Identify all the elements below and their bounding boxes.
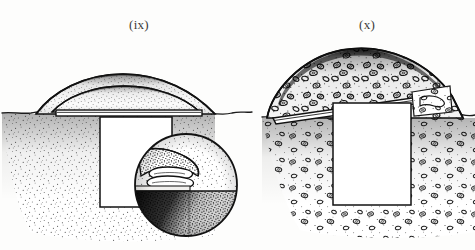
panel-ix xyxy=(2,71,252,241)
panel-x-stone-pocket xyxy=(412,86,452,116)
figure-root: (ix) (x) xyxy=(0,0,475,250)
cross-section-illustration xyxy=(0,0,475,250)
panel-ix-capping-slab xyxy=(56,110,202,116)
panel-x xyxy=(262,48,475,237)
panel-x-chamber xyxy=(333,103,411,205)
